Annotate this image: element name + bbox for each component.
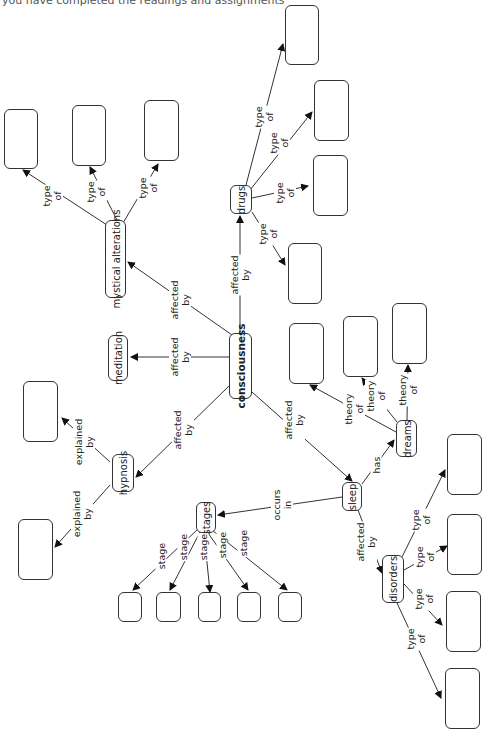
- blank-box-disorders-3[interactable]: [446, 591, 481, 652]
- blank-box-stage-1[interactable]: [118, 592, 142, 622]
- node-label: disorders: [388, 556, 399, 602]
- blank-box-dreams-3[interactable]: [392, 303, 427, 364]
- link-label-stage: stage: [198, 533, 209, 561]
- blank-box-hypnosis-1[interactable]: [23, 381, 58, 442]
- node-label: consciousness: [235, 323, 247, 408]
- blank-box-stage-3[interactable]: [198, 592, 221, 622]
- link-label-type-of: typeof: [410, 508, 432, 531]
- link-label-type-of: typeof: [257, 222, 279, 245]
- link-label-explained-by: explainedby: [73, 418, 95, 466]
- link-label-type-of: typeof: [413, 587, 435, 610]
- node-label: drugs: [236, 185, 247, 213]
- link-label-type-of: typeof: [253, 105, 275, 128]
- blank-box-drugs-3[interactable]: [313, 155, 348, 216]
- link-label-type-of: typeof: [268, 131, 290, 154]
- blank-box-disorders-4[interactable]: [445, 668, 480, 729]
- link-label-type-of: typeof: [414, 545, 436, 568]
- blank-box-stage-2[interactable]: [156, 592, 181, 622]
- node-meditation[interactable]: meditation: [108, 335, 128, 381]
- node-mystical-alterations[interactable]: mystical alterations: [105, 220, 126, 298]
- link-label-type-of: typeof: [274, 181, 296, 204]
- link-label-stage: stage: [217, 531, 228, 559]
- link-label-has: has: [371, 456, 382, 475]
- link-label-theory-of: theoryof: [365, 380, 387, 413]
- link-label-theory-of: theoryof: [343, 393, 365, 426]
- node-disorders[interactable]: disorders: [382, 555, 404, 603]
- link-label-stage: stage: [156, 542, 167, 570]
- blank-box-mystical-3[interactable]: [144, 100, 179, 161]
- link-label-affected-by: affectedby: [355, 521, 377, 562]
- blank-box-dreams-2[interactable]: [343, 316, 378, 377]
- link-label-explained-by: explainedby: [71, 490, 93, 538]
- link-label-occurs-in: occursin: [271, 488, 293, 521]
- link-label-type-of: typeof: [85, 180, 107, 203]
- node-label: stages: [201, 501, 212, 534]
- node-label: dreams: [401, 420, 412, 457]
- node-dreams[interactable]: dreams: [396, 420, 417, 457]
- blank-box-drugs-1[interactable]: [285, 5, 319, 65]
- link-label-affected-by: affectedby: [169, 279, 191, 320]
- blank-box-dreams-1[interactable]: [289, 323, 324, 384]
- blank-box-drugs-2[interactable]: [314, 80, 349, 141]
- node-consciousness[interactable]: consciousness: [229, 333, 252, 399]
- node-stages[interactable]: stages: [196, 502, 216, 533]
- blank-box-stage-5[interactable]: [278, 592, 302, 622]
- link-label-type-of: typeof: [137, 176, 159, 199]
- link-label-affected-by: affectedby: [229, 254, 251, 295]
- node-drugs[interactable]: drugs: [230, 185, 252, 214]
- node-label: mystical alterations: [110, 210, 121, 309]
- blank-box-disorders-2[interactable]: [447, 514, 482, 575]
- link-label-type-of: typeof: [405, 627, 427, 650]
- blank-box-mystical-1[interactable]: [4, 109, 38, 169]
- node-label: meditation: [113, 331, 124, 385]
- link-label-affected-by: affectedby: [169, 336, 191, 377]
- node-label: hypnosis: [118, 451, 129, 495]
- link-label-affected-by: affectedby: [172, 409, 194, 450]
- link-label-type-of: typeof: [41, 184, 63, 207]
- blank-box-stage-4[interactable]: [237, 592, 261, 622]
- link-label-theory-of: theoryof: [397, 374, 419, 407]
- link-label-stage: stage: [238, 529, 249, 557]
- blank-box-disorders-1[interactable]: [447, 434, 482, 495]
- blank-box-mystical-2[interactable]: [72, 105, 106, 166]
- node-label: sleep: [347, 483, 358, 510]
- blank-box-hypnosis-2[interactable]: [18, 519, 53, 580]
- blank-box-drugs-4[interactable]: [288, 243, 322, 304]
- link-label-stage: stage: [178, 533, 189, 561]
- node-sleep[interactable]: sleep: [342, 482, 362, 511]
- node-hypnosis[interactable]: hypnosis: [112, 454, 134, 492]
- link-label-affected-by: affectedby: [283, 399, 305, 440]
